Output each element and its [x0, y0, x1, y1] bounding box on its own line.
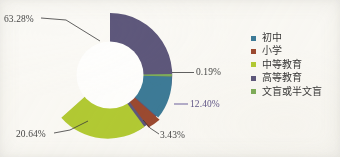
value-label-xiaoxue: 3.43%: [160, 130, 185, 140]
legend-swatch-icon: [251, 62, 256, 67]
value-label-wenmang: 0.19%: [196, 67, 221, 77]
donut-hole: [77, 42, 144, 109]
legend-item-chuzhong[interactable]: 初中: [251, 33, 322, 43]
legend-swatch-icon: [251, 89, 256, 94]
chart-figure: 63.28% 20.64% 3.43% 0.19% 12.40% 初中 小学 中…: [0, 0, 340, 157]
value-label-zhongdeng: 20.64%: [16, 129, 46, 139]
legend-item-label: 高等教育: [262, 73, 302, 83]
legend-item-wenmang[interactable]: 文盲或半文盲: [251, 87, 322, 97]
legend-item-label: 文盲或半文盲: [262, 87, 322, 97]
value-label-gaodeng: 63.28%: [4, 14, 34, 24]
legend-item-gaodeng[interactable]: 高等教育: [251, 73, 322, 83]
legend-swatch-icon: [251, 76, 256, 81]
donut-chart: 63.28% 20.64% 3.43%: [0, 0, 232, 157]
leader-line-gaodeng: [41, 18, 100, 41]
legend-item-label: 小学: [262, 46, 282, 56]
value-label-chuzhong: 12.40%: [190, 99, 220, 109]
legend-swatch-icon: [251, 49, 256, 54]
legend-item-xiaoxue[interactable]: 小学: [251, 46, 322, 56]
chart-legend: 初中 小学 中等教育 高等教育 文盲或半文盲: [251, 33, 322, 97]
legend-item-label: 初中: [262, 33, 282, 43]
legend-item-label: 中等教育: [262, 60, 302, 70]
legend-item-zhongdeng[interactable]: 中等教育: [251, 60, 322, 70]
legend-swatch-icon: [251, 36, 256, 41]
